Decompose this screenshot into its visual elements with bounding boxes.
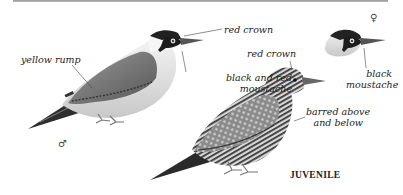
leader-male-red-crown (184, 29, 222, 36)
label-juvenile-red-crown: red crown (247, 48, 296, 59)
female-head (325, 30, 386, 57)
label-barring-line2: and below (306, 117, 363, 128)
illustration (0, 0, 403, 195)
label-yellow-rump: yellow rump (21, 54, 81, 65)
female-symbol: ♀ (370, 12, 377, 23)
label-barring-line1: barred above (306, 106, 363, 117)
label-male-moustache-line1: black and red (188, 72, 292, 83)
leader-barring (294, 117, 305, 121)
male-symbol: ♂ (58, 138, 67, 149)
label-female-moustache-line1: black (346, 68, 392, 79)
label-male-red-crown: red crown (224, 24, 273, 35)
male-woodpecker (28, 30, 204, 129)
juvenile-caption: JUVENILE (290, 170, 340, 180)
leader-male-moustache (182, 51, 186, 72)
label-female-moustache: black moustache (346, 68, 392, 90)
label-barring: barred above and below (306, 106, 363, 128)
leader-female-moustache (364, 48, 366, 68)
label-female-moustache-line2: moustache (346, 79, 392, 90)
label-male-moustache: black and red moustache (188, 72, 292, 94)
label-male-moustache-line2: moustache (188, 83, 292, 94)
leader-yellow-rump (72, 65, 92, 88)
